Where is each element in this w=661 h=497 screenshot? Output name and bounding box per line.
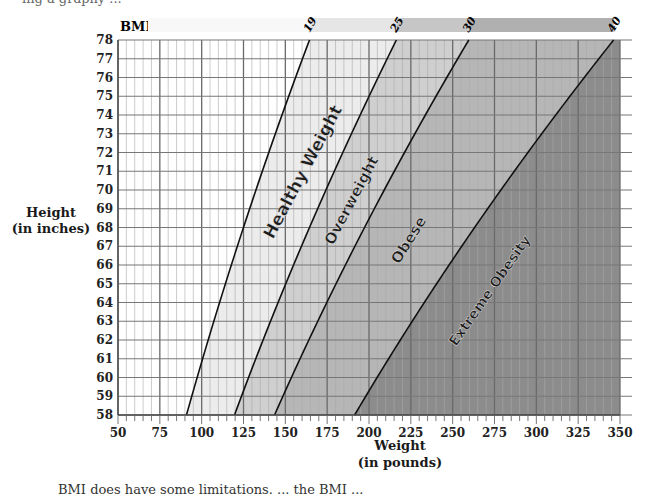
y-tick-label: 65 <box>96 277 113 291</box>
legend-segment-overweight <box>396 18 468 32</box>
x-tick-label: 350 <box>607 426 632 440</box>
legend-title: BMI <box>120 19 151 34</box>
cropped-text-bottom: BMI does have some limitations. ... the … <box>58 482 364 497</box>
x-tick-label: 125 <box>231 426 256 440</box>
grid-lines <box>118 40 632 415</box>
x-tick-label: 300 <box>524 426 549 440</box>
y-tick-label: 73 <box>96 127 113 141</box>
x-tick-label: 200 <box>356 426 381 440</box>
legend-label-25: 25 <box>387 15 406 36</box>
x-tick-label: 325 <box>566 426 591 440</box>
bmi-legend-bar: BMI19253040 <box>120 14 624 35</box>
y-tick-label: 63 <box>96 314 113 328</box>
y-tick-label: 74 <box>96 108 113 122</box>
y-tick-label: 77 <box>96 52 113 66</box>
x-tick-label: 175 <box>315 426 340 440</box>
y-tick-label: 71 <box>96 164 113 178</box>
y-tick-label: 68 <box>96 221 113 235</box>
x-tick-label: 150 <box>273 426 298 440</box>
y-tick-label: 76 <box>96 71 113 85</box>
x-tick-label: 225 <box>398 426 423 440</box>
y-tick-label: 69 <box>96 202 113 216</box>
y-tick-label: 75 <box>96 89 113 103</box>
x-tick-label: 100 <box>189 426 214 440</box>
y-tick-label: 64 <box>96 296 113 310</box>
y-tick-label: 61 <box>96 352 113 366</box>
y-tick-label: 59 <box>96 389 113 403</box>
legend-segment-healthy <box>309 18 396 32</box>
y-tick-label: 58 <box>96 408 113 422</box>
x-tick-label: 275 <box>482 426 507 440</box>
legend-segment-under <box>148 18 309 32</box>
x-tick-label: 250 <box>440 426 465 440</box>
y-tick-label: 67 <box>96 239 113 253</box>
x-tick-label: 50 <box>110 426 127 440</box>
y-tick-label: 70 <box>96 183 113 197</box>
x-tick-label: 75 <box>151 426 168 440</box>
y-tick-label: 78 <box>96 33 113 47</box>
y-tick-label: 60 <box>96 371 113 385</box>
y-tick-label: 66 <box>96 258 113 272</box>
legend-segment-obese <box>469 18 614 32</box>
y-tick-label: 62 <box>96 333 113 347</box>
y-tick-label: 72 <box>96 146 113 160</box>
